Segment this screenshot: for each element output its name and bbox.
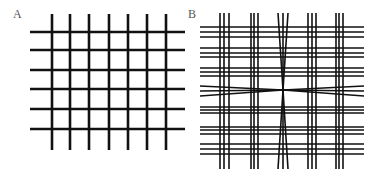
grid-illusion-figure [0,0,384,182]
panel-b-converging-grid [200,13,364,169]
panel-a-straight-grid [30,14,185,150]
